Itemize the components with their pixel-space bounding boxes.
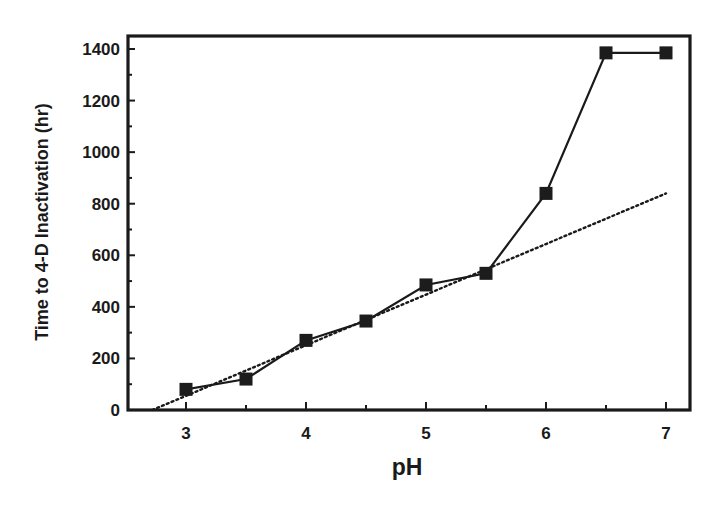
data-point-square-marker [300,334,313,347]
trend-line-dotted [152,193,666,410]
x-tick-label: 7 [661,424,670,443]
plot-frame [128,36,690,410]
x-tick-label: 3 [181,424,190,443]
x-axis-title: pH [392,454,423,480]
x-axis-ticks: 34567 [181,402,670,443]
y-tick-label: 0 [111,401,120,420]
y-tick-label: 1000 [82,143,120,162]
y-axis-title: Time to 4-D Inactivation (hr) [32,103,52,341]
data-point-square-marker [600,46,613,59]
data-point-square-marker [180,383,193,396]
data-point-square-marker [240,373,253,386]
line-chart: 0200400600800100012001400 34567 pH Time … [0,0,721,508]
data-point-square-marker [360,315,373,328]
y-tick-label: 600 [92,246,120,265]
y-tick-label: 1400 [82,40,120,59]
x-tick-label: 4 [301,424,311,443]
plot-border [128,36,690,410]
y-tick-label: 200 [92,349,120,368]
data-line [186,53,666,390]
x-tick-label: 5 [421,424,430,443]
y-tick-label: 1200 [82,92,120,111]
data-point-square-marker [540,187,553,200]
x-tick-label: 6 [541,424,550,443]
data-point-square-marker [420,278,433,291]
data-point-square-marker [660,46,673,59]
y-tick-label: 400 [92,298,120,317]
series-layer [152,46,672,410]
data-point-square-marker [480,267,493,280]
y-tick-label: 800 [92,195,120,214]
